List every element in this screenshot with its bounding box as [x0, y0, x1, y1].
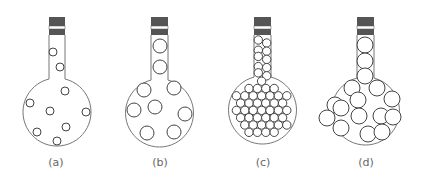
particle-circle [384, 91, 400, 107]
particle-circle [61, 87, 69, 95]
label-d: (d) [346, 156, 386, 169]
particle-circle [374, 124, 390, 140]
particle-circle [178, 107, 192, 121]
particle-circle [137, 83, 151, 97]
particle-circle [148, 100, 162, 114]
particle-circle [333, 100, 349, 116]
particle-circle [153, 39, 167, 53]
label-c: (c) [243, 156, 283, 169]
particle-circle [245, 128, 253, 136]
particle-circle [167, 125, 181, 139]
particle-circle [33, 128, 41, 136]
stopper-stripe [357, 26, 374, 29]
particle-circle [369, 80, 385, 96]
particle-circle [263, 63, 271, 71]
particle-circle [270, 128, 278, 136]
particle-circle [82, 108, 90, 116]
particle-circle [153, 60, 167, 74]
stopper-top [151, 17, 168, 26]
particle-circle [263, 39, 271, 47]
particle-circle [350, 92, 366, 108]
label-b: (b) [140, 156, 180, 169]
particle-circle [263, 47, 271, 55]
particle-circle [385, 109, 401, 125]
particle-circle [53, 137, 61, 145]
flask-b [126, 17, 194, 147]
particle-circle [351, 108, 367, 124]
stopper-top [49, 17, 65, 26]
stopper-stripe [151, 26, 168, 29]
particle-circle [253, 128, 261, 136]
flask-c [228, 17, 296, 144]
stopper-bottom [357, 29, 374, 35]
particle-circle [333, 120, 349, 136]
stopper-bottom [49, 29, 65, 35]
particle-circle [283, 121, 291, 129]
stopper-bottom [254, 29, 271, 35]
particle-circle [56, 63, 64, 71]
flask-a [23, 17, 91, 146]
particle-circle [357, 68, 373, 84]
particle-circle [262, 128, 270, 136]
stopper-top [254, 17, 271, 26]
particle-circle [357, 37, 373, 53]
particle-circle [254, 52, 262, 60]
label-a: (a) [36, 156, 76, 169]
particle-circle [263, 55, 271, 63]
particle-circle [46, 107, 54, 115]
particle-circle [357, 53, 373, 69]
particle-circle [254, 36, 262, 44]
particle-circle [319, 110, 335, 126]
stopper-stripe [254, 26, 271, 29]
particle-circle [26, 99, 34, 107]
particle-circle [360, 126, 376, 142]
particle-circle [254, 69, 262, 77]
particle-circle [127, 103, 141, 117]
stopper-top [357, 17, 374, 26]
flask-d [319, 17, 401, 145]
stopper-stripe [49, 26, 65, 29]
particle-circle [140, 126, 154, 140]
particle-circle [49, 48, 57, 56]
stopper-bottom [151, 29, 168, 35]
particle-circle [62, 123, 70, 131]
particle-circle [167, 81, 181, 95]
